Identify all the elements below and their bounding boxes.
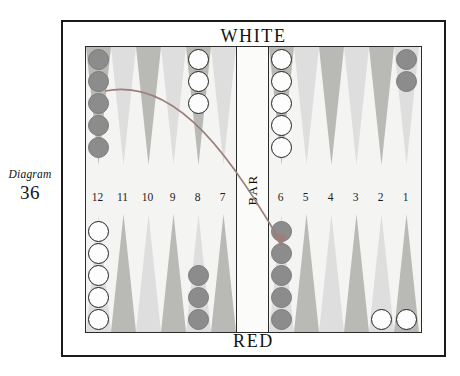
point-triangle	[111, 214, 136, 332]
checker-white-p13[interactable]	[88, 287, 109, 308]
checker-dark-p19[interactable]	[271, 309, 292, 330]
point-triangle	[294, 214, 319, 332]
checker-dark-p19[interactable]	[271, 287, 292, 308]
backgammon-board: BAR	[85, 46, 422, 333]
point-p18[interactable]	[211, 214, 236, 332]
point-p11[interactable]	[111, 47, 136, 165]
checker-white-p6[interactable]	[271, 49, 292, 70]
point-p3[interactable]	[344, 47, 369, 165]
checker-white-p6[interactable]	[271, 137, 292, 158]
checker-dark-p17[interactable]	[188, 265, 209, 286]
checker-dark-p19[interactable]	[271, 265, 292, 286]
diagram-caption-word: Diagram	[2, 168, 58, 181]
point-triangle	[319, 47, 344, 165]
point-p14[interactable]	[111, 214, 136, 332]
checker-white-p6[interactable]	[271, 71, 292, 92]
checker-dark-p12[interactable]	[88, 93, 109, 114]
point-p22[interactable]	[344, 214, 369, 332]
checker-dark-p17[interactable]	[188, 287, 209, 308]
checker-white-p24[interactable]	[396, 309, 417, 330]
point-p9[interactable]	[161, 47, 186, 165]
checker-white-p13[interactable]	[88, 221, 109, 242]
point-p10[interactable]	[136, 47, 161, 165]
point-triangle	[369, 47, 394, 165]
checker-dark-p1[interactable]	[396, 49, 417, 70]
checker-white-p23[interactable]	[371, 309, 392, 330]
checker-white-p8[interactable]	[188, 49, 209, 70]
point-p4[interactable]	[319, 47, 344, 165]
point-triangle	[161, 214, 186, 332]
checker-white-p8[interactable]	[188, 71, 209, 92]
board-bar[interactable]: BAR	[236, 47, 269, 332]
point-triangle	[344, 47, 369, 165]
diagram-frame: WHITE RED BAR 121110987 654321	[61, 20, 446, 357]
point-triangle	[111, 47, 136, 165]
board-half-left	[86, 47, 236, 332]
player-banner-red: RED	[63, 331, 444, 352]
point-triangle	[136, 214, 161, 332]
checker-dark-p12[interactable]	[88, 49, 109, 70]
checker-white-p6[interactable]	[271, 93, 292, 114]
point-triangle	[136, 47, 161, 165]
point-triangle	[294, 47, 319, 165]
checker-white-p13[interactable]	[88, 309, 109, 330]
checker-dark-p1[interactable]	[396, 71, 417, 92]
point-triangle	[161, 47, 186, 165]
checker-dark-p19[interactable]	[271, 243, 292, 264]
checker-dark-p17[interactable]	[188, 309, 209, 330]
checker-white-p8[interactable]	[188, 93, 209, 114]
bar-label: BAR	[245, 174, 261, 205]
diagram-caption: Diagram 36	[2, 168, 58, 204]
point-p7[interactable]	[211, 47, 236, 165]
player-banner-white: WHITE	[63, 26, 444, 47]
checker-dark-p12[interactable]	[88, 137, 109, 158]
point-triangle	[211, 47, 236, 165]
point-triangle	[211, 214, 236, 332]
point-p15[interactable]	[136, 214, 161, 332]
checker-dark-p12[interactable]	[88, 71, 109, 92]
checker-dark-p12[interactable]	[88, 115, 109, 136]
checker-white-p13[interactable]	[88, 265, 109, 286]
diagram-caption-number: 36	[2, 182, 58, 204]
point-p21[interactable]	[319, 214, 344, 332]
point-triangle	[344, 214, 369, 332]
board-half-right	[269, 47, 419, 332]
point-triangle	[319, 214, 344, 332]
checker-white-p6[interactable]	[271, 115, 292, 136]
checker-dark-p19[interactable]	[271, 221, 292, 242]
point-p20[interactable]	[294, 214, 319, 332]
checker-white-p13[interactable]	[88, 243, 109, 264]
point-p5[interactable]	[294, 47, 319, 165]
point-p2[interactable]	[369, 47, 394, 165]
point-p16[interactable]	[161, 214, 186, 332]
